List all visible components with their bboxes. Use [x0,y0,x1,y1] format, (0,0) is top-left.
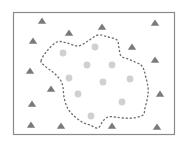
triangle-marker-icon [28,100,36,106]
diagram-canvas [0,0,185,143]
triangle-marker-icon [65,29,73,35]
circle-marker-icon [88,113,95,120]
circle-marker-icon [127,76,134,83]
circle-marker-icon [66,75,73,82]
triangle-marker-icon [57,122,65,128]
cluster-boundary-diagram [0,0,185,143]
triangle-marker-icon [98,23,106,29]
triangle-marker-icon [108,122,116,128]
triangle-marker-icon [26,67,34,73]
triangle-marker-icon [128,43,136,49]
circle-marker-icon [84,62,91,69]
inner-points-group [60,44,134,120]
outer-points-group [26,17,164,129]
triangle-marker-icon [151,56,159,62]
triangle-marker-icon [27,121,35,127]
triangle-marker-icon [29,37,37,43]
circle-marker-icon [92,44,99,51]
circle-marker-icon [75,91,82,98]
triangle-marker-icon [153,123,161,129]
triangle-marker-icon [47,85,55,91]
circle-marker-icon [109,62,116,69]
circle-marker-icon [100,79,107,86]
circle-marker-icon [60,50,67,57]
circle-marker-icon [119,99,126,106]
triangle-marker-icon [38,17,46,23]
triangle-marker-icon [151,19,159,25]
triangle-marker-icon [156,90,164,96]
